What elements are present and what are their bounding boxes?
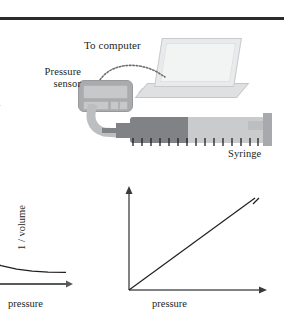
label-pressure-sensor-line1: Pressure [29, 66, 81, 78]
chart-left-xlabel: pressure [8, 298, 43, 309]
laptop-screen [154, 38, 242, 87]
chart-right-ylabel: 1 / volume [16, 198, 27, 258]
sensor-display-screen [83, 85, 128, 99]
label-syringe: Syringe [228, 148, 261, 159]
boyles-law-apparatus-figure: . r. [0, 0, 284, 319]
margin-text-fragment-lower: r. [0, 96, 1, 108]
header-rule [0, 17, 284, 20]
label-to-computer: To computer [84, 39, 141, 51]
chart-inverse-volume-vs-pressure [113, 182, 273, 302]
laptop-display-area [160, 43, 236, 82]
label-pressure-sensor-line2: sensor [29, 78, 81, 90]
label-pressure-sensor: Pressure sensor [29, 66, 81, 89]
chart-volume-vs-pressure [0, 212, 74, 302]
syringe-plunger-flange [263, 113, 272, 146]
chart-right-xlabel: pressure [152, 298, 187, 309]
